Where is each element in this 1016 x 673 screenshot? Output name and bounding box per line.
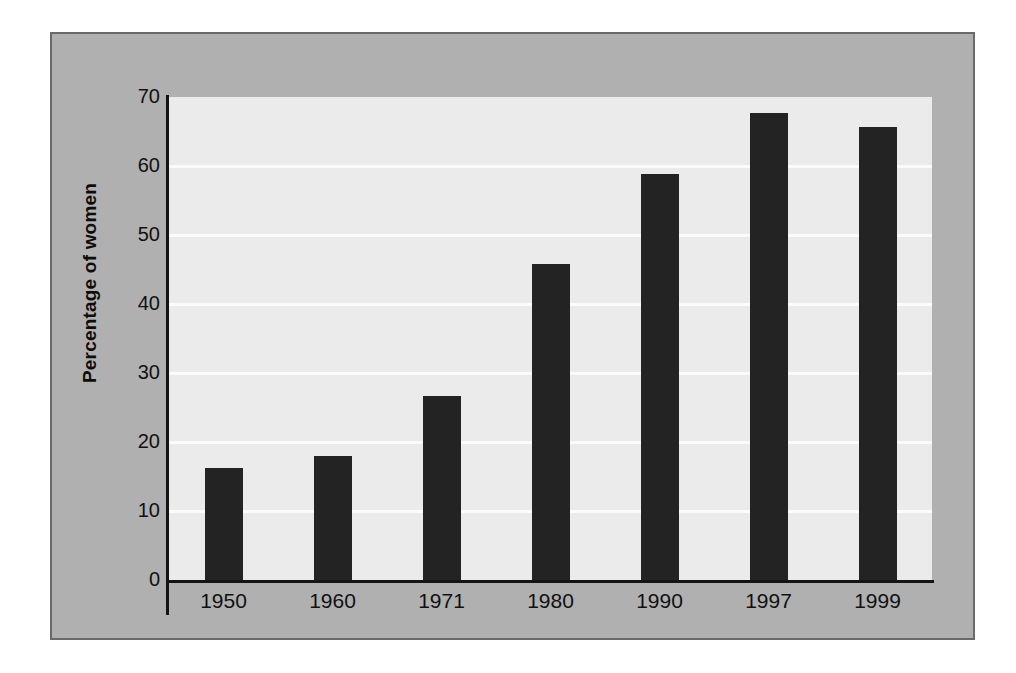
bar [314,456,352,580]
x-tick-label: 1997 [724,590,814,611]
x-tick-label: 1990 [615,590,705,611]
x-tick-label: 1950 [179,590,269,611]
bar [750,113,788,580]
bar [641,174,679,580]
y-tick-label: 20 [116,431,160,451]
x-axis-line [166,580,934,583]
y-axis-title: Percentage of women [79,153,101,413]
y-tick-label: 60 [116,155,160,175]
bar [423,396,461,580]
x-tick-label: 1999 [833,590,923,611]
bar [859,127,897,580]
gridline [169,234,932,237]
y-tick-label: 10 [116,500,160,520]
x-tick-label: 1960 [288,590,378,611]
chart-figure: Percentage of women 70 60 50 40 30 20 10… [50,32,975,640]
y-tick-label: 0 [116,569,160,589]
x-tick-label: 1980 [506,590,596,611]
y-tick-label: 50 [116,224,160,244]
y-axis-tick-labels: 70 60 50 40 30 20 10 0 [108,34,160,642]
bar [532,264,570,580]
y-tick-label: 70 [116,86,160,106]
y-tick-label: 30 [116,362,160,382]
y-tick-label: 40 [116,293,160,313]
bar [205,468,243,580]
plot-area [169,97,932,580]
x-tick-label: 1971 [397,590,487,611]
gridline [169,165,932,168]
